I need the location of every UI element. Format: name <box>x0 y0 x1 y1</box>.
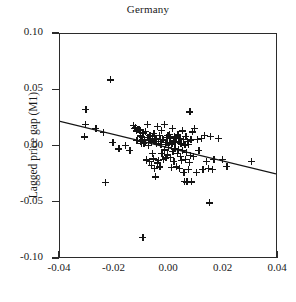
x-tick-label: 0.04 <box>267 261 286 273</box>
regression-line <box>60 34 276 257</box>
y-tick-label: 0.00 <box>24 138 43 150</box>
x-tick-label: -0.02 <box>102 261 125 273</box>
x-tick-label: 0.00 <box>158 261 177 273</box>
y-tick-mark <box>52 145 59 146</box>
scatter-plot-figure: Germany Lagged price gap (M1) 0.100.050.… <box>0 0 296 302</box>
x-tick-label: -0.04 <box>48 261 71 273</box>
y-tick-label: -0.05 <box>20 194 43 206</box>
plot-area <box>60 34 276 257</box>
plot-frame <box>59 33 277 258</box>
y-tick-mark <box>52 89 59 90</box>
y-tick-mark <box>52 201 59 202</box>
x-tick-label: 0.02 <box>213 261 232 273</box>
y-tick-label: -0.10 <box>20 250 43 262</box>
y-tick-label: 0.05 <box>24 81 43 93</box>
y-tick-mark <box>52 32 59 33</box>
y-tick-label: 0.10 <box>24 25 43 37</box>
chart-title: Germany <box>0 3 296 15</box>
